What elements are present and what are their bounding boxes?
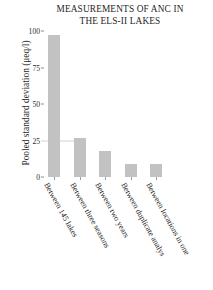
bar[interactable] <box>150 164 162 177</box>
y-tick-mark <box>41 31 44 32</box>
y-tick-label: 75 <box>32 63 40 72</box>
chart-title-line-1: MEASUREMENTS OF ANC IN <box>30 3 210 15</box>
bar[interactable] <box>74 138 86 177</box>
y-tick-label: 0 <box>36 173 40 182</box>
y-tick-label: 100 <box>29 27 40 36</box>
y-tick-label: 25 <box>32 136 40 145</box>
y-axis-title: Pooled standard deviation (μeq/l) <box>21 23 31 183</box>
bar[interactable] <box>125 164 137 177</box>
y-tick-mark <box>41 104 44 105</box>
chart-title-line-2: THE ELS-II LAKES <box>30 15 210 27</box>
plot-area: 0255075100 <box>44 31 204 177</box>
bar[interactable] <box>99 151 111 177</box>
y-tick-label: 50 <box>32 100 40 109</box>
x-tick-mark <box>105 177 106 180</box>
y-tick-mark <box>41 177 44 178</box>
x-tick-mark <box>80 177 81 180</box>
chart-figure: MEASUREMENTS OF ANC IN THE ELS-II LAKES … <box>0 0 213 290</box>
x-tick-mark <box>156 177 157 180</box>
x-axis-label: Between duplicate analys <box>119 181 167 258</box>
x-tick-mark <box>54 177 55 180</box>
y-tick-mark <box>41 67 44 68</box>
chart-title: MEASUREMENTS OF ANC IN THE ELS-II LAKES <box>30 3 210 27</box>
x-tick-mark <box>131 177 132 180</box>
bar[interactable] <box>48 35 60 177</box>
x-axis-label: Between locations in one <box>144 181 191 257</box>
